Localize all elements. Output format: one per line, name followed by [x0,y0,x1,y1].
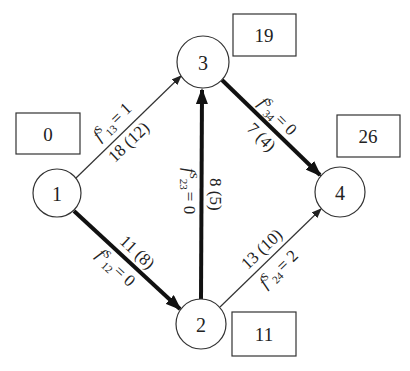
potential-box-node-2: 11 [232,312,296,356]
node-2: 2 [176,299,226,349]
potential-box-node-3: 19 [233,14,296,56]
potential-value-node-3: 19 [255,25,274,46]
potential-box-node-4: 26 [337,115,400,157]
edge-3-4 [222,80,320,175]
edge-2-3 [201,90,202,299]
edge-2-4 [220,209,321,307]
potential-box-node-1: 0 [16,113,80,154]
edge-2-4-labels: 13 (10) fS24= 2 [237,225,305,293]
node-2-label: 2 [196,314,206,336]
node-3: 3 [177,36,229,88]
edge-2-3-cost-capacity: 8 (5) [206,178,225,211]
network-diagram: fS13= 1 18 (12) 11 (8) fS12= 0 8 (5) fS2… [0,0,410,371]
potential-value-node-1: 0 [43,124,53,145]
edge-1-2 [74,211,180,309]
node-4-label: 4 [335,182,345,204]
potential-value-node-4: 26 [359,126,378,147]
edge-1-3-labels: fS13= 1 18 (12) [86,98,154,166]
node-4: 4 [315,167,365,217]
potential-value-node-2: 11 [255,324,273,345]
edge-2-3-flow-label: fS23= 0 [178,168,200,214]
node-1: 1 [33,169,81,217]
node-3-label: 3 [198,52,208,74]
node-1-label: 1 [52,183,62,205]
